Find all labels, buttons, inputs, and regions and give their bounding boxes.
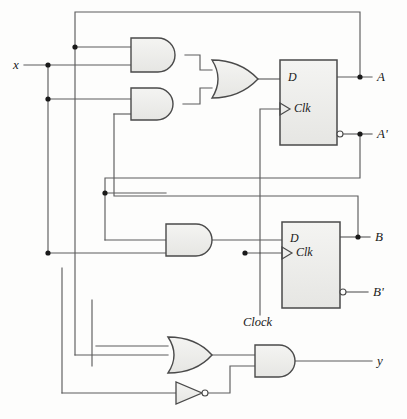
ff-b-d-label: D [290, 232, 299, 244]
label-clock: Clock [243, 316, 272, 329]
ff-a-d-label: D [288, 71, 297, 83]
label-output-y: y [377, 354, 383, 367]
label-output-a-not: A' [377, 127, 388, 140]
ff-a-clk-label: Clk [294, 102, 311, 114]
ff-b-clk-label: Clk [296, 246, 313, 258]
label-output-a: A [377, 70, 385, 83]
flipflop-shapes [280, 60, 346, 308]
wire-layer [0, 0, 407, 419]
label-input-x: x [13, 58, 19, 71]
label-output-b-not: B' [373, 285, 384, 298]
gate-shapes [131, 38, 295, 404]
label-output-b: B [375, 230, 383, 243]
circuit-diagram: x D Clk D Clk Clock A A' B B' y [0, 0, 407, 419]
